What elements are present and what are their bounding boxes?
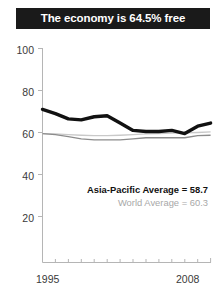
plot-area: [0, 0, 218, 298]
x-axis-ticks: [43, 258, 211, 263]
chart-figure: The economy is 64.5% free 100 80 60 40 2…: [0, 0, 218, 298]
y-axis-ticks: [38, 49, 43, 217]
legend-item-world: World Average = 60.3: [87, 196, 208, 209]
chart-svg: [0, 0, 218, 298]
series-line-country: [43, 109, 211, 133]
chart-legend: Asia-Pacific Average = 58.7 World Averag…: [87, 183, 208, 209]
legend-item-asia-pacific: Asia-Pacific Average = 58.7: [87, 183, 208, 196]
